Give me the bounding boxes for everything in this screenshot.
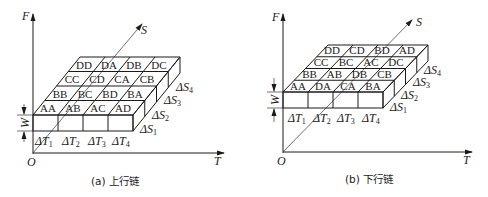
height-label: W	[268, 94, 282, 105]
cell: DA	[101, 59, 117, 71]
cell: DA	[315, 80, 331, 92]
time-labels-a: ΔT1 ΔT2 ΔT3 ΔT4	[34, 134, 130, 149]
space-label: ΔS2	[400, 88, 418, 103]
time-label: ΔT1	[287, 111, 306, 126]
cell: AC	[363, 56, 378, 68]
time-labels-b: ΔT1 ΔT2 ΔT3 ΔT4	[287, 111, 380, 126]
space-label: ΔS3	[163, 93, 181, 108]
caption-b: (b) 下行链	[345, 173, 394, 185]
s-axis-label: S	[416, 15, 422, 29]
cell: AD	[115, 102, 131, 114]
cell: BD	[102, 88, 117, 100]
time-label: ΔT1	[34, 134, 53, 149]
f-axis-label: F	[21, 9, 30, 23]
cell: DD	[324, 44, 340, 56]
height-label: W	[18, 117, 32, 128]
s-axis-label: S	[141, 23, 147, 37]
cell: BB	[53, 88, 68, 100]
space-label: ΔS1	[139, 122, 157, 137]
space-labels-a: ΔS1 ΔS2 ΔS3 ΔS4	[139, 80, 193, 137]
space-label: ΔS3	[412, 75, 430, 90]
time-label: ΔT2	[312, 111, 331, 126]
time-label: ΔT4	[111, 134, 130, 149]
caption-a: (a) 上行链	[91, 175, 140, 187]
t-axis-label: T	[463, 153, 471, 167]
space-label: ΔS1	[389, 100, 407, 115]
time-label: ΔT3	[336, 111, 355, 126]
cell: CA	[340, 80, 355, 92]
space-label: ΔS4	[175, 80, 193, 95]
cell: BC	[78, 88, 93, 100]
cell: AB	[327, 68, 342, 80]
height-dimension-a: W	[17, 104, 33, 142]
cell: CC	[65, 73, 80, 85]
cell: AD	[399, 44, 415, 56]
origin-label: O	[277, 154, 286, 168]
time-label: ΔT3	[87, 134, 106, 149]
cell: BA	[127, 88, 142, 100]
space-label: ΔS4	[423, 63, 441, 78]
cell: CC	[314, 56, 329, 68]
cell: BA	[365, 80, 380, 92]
height-dimension-b: W	[267, 78, 283, 122]
cell: BB	[302, 68, 317, 80]
cell: CB	[140, 73, 155, 85]
time-label: ΔT4	[361, 111, 380, 126]
space-label: ΔS2	[151, 108, 169, 123]
space-labels-b: ΔS1 ΔS2 ΔS3 ΔS4	[389, 63, 441, 115]
cells-b: AA DA CA BA BB AB DB CB CC BC AC DC DD C…	[290, 44, 415, 92]
cell: DD	[76, 59, 92, 71]
figure-b: F T S O AA DA CA BA BB A	[267, 10, 472, 185]
t-axis-label: T	[214, 154, 222, 168]
cell: AA	[40, 102, 56, 114]
cell: AA	[290, 80, 306, 92]
cell: BC	[339, 56, 354, 68]
cell: CD	[349, 44, 364, 56]
cell: DC	[151, 59, 166, 71]
cell: DB	[352, 68, 367, 80]
time-label: ΔT2	[61, 134, 80, 149]
cell: AB	[65, 102, 80, 114]
cell: AC	[90, 102, 105, 114]
cell: DC	[388, 56, 403, 68]
f-axis-label: F	[271, 10, 280, 24]
cell: DB	[126, 59, 141, 71]
cell: CA	[114, 73, 129, 85]
diagram-canvas: F T S O AA AB AC	[0, 0, 488, 197]
cell: CD	[89, 73, 104, 85]
cell: CB	[377, 68, 392, 80]
cell: BD	[374, 44, 389, 56]
origin-label: O	[27, 155, 36, 169]
figure-a: F T S O AA AB AC	[17, 9, 224, 187]
